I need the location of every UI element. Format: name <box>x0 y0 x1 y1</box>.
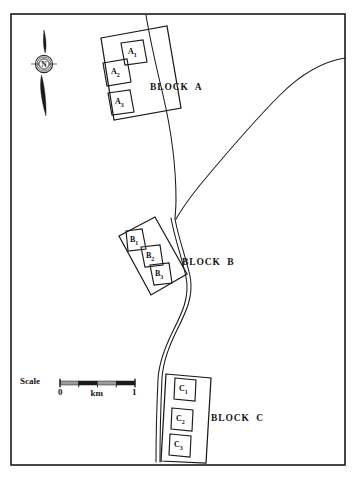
compass-north-letter: N <box>41 60 47 69</box>
scale-max-label: 1 <box>132 387 137 397</box>
plot-label-c2: C2 <box>176 414 185 425</box>
plot-label-a2-index: 2 <box>117 72 120 78</box>
block-c-label: BLOCK C <box>211 413 264 423</box>
plot-label-c3-index: 3 <box>180 445 183 451</box>
compass-north-needle <box>43 30 46 53</box>
scale-unit-label: km <box>91 388 104 398</box>
plot-label-b3: B3 <box>155 269 163 280</box>
plot-label-a3: A3 <box>115 97 124 108</box>
plot-label-b3-index: 3 <box>160 274 163 280</box>
plot-label-b2-index: 2 <box>151 256 154 262</box>
scale-bar-segment-2 <box>79 381 98 385</box>
scale-bar-segment-1 <box>60 381 79 385</box>
scale-caption: Scale <box>20 376 40 386</box>
plot-label-a1: A1 <box>128 47 137 58</box>
plot-label-a3-index: 3 <box>121 102 124 108</box>
plot-label-b1-index: 1 <box>135 240 138 246</box>
plot-label-c1: C1 <box>179 384 188 395</box>
map-canvas: N <box>0 0 356 478</box>
scale-bar-segment-3 <box>98 381 117 385</box>
plot-label-c1-index: 1 <box>185 389 188 395</box>
compass-south-needle <box>41 75 47 116</box>
lower-river <box>160 219 191 462</box>
main-river <box>146 15 176 219</box>
plot-label-b1: B1 <box>130 235 138 246</box>
block-b-label: BLOCK B <box>182 257 235 267</box>
plot-label-a1-index: 1 <box>134 52 137 58</box>
map-figure: N A1A2A3BLOCK AB1B2B3BLOCK BC1C2C3BLOCK … <box>0 0 356 478</box>
scale-min-label: 0 <box>58 387 63 397</box>
scale-bar-segment-4 <box>116 381 135 385</box>
plot-label-c3: C3 <box>174 440 183 451</box>
plot-label-b2: B2 <box>146 251 154 262</box>
plot-label-a2: A2 <box>111 67 120 78</box>
block-a-label: BLOCK A <box>150 82 203 92</box>
plot-label-c2-index: 2 <box>182 419 185 425</box>
